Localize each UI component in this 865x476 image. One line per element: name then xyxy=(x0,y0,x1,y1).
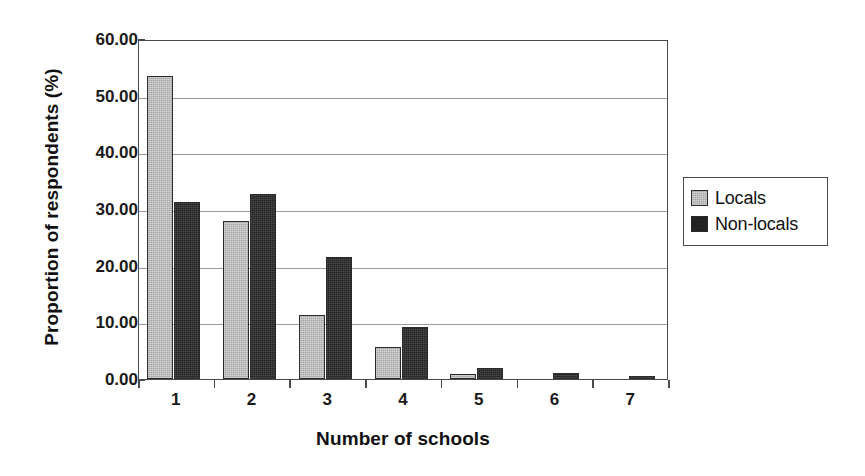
legend-label: Locals xyxy=(715,188,766,209)
legend-entry-locals[interactable]: Locals xyxy=(691,185,819,211)
x-tick-mark xyxy=(365,380,367,388)
plot-area xyxy=(138,40,668,380)
x-tick-mark xyxy=(289,380,291,388)
y-tick-label: 60.00 xyxy=(54,30,138,50)
bar-group xyxy=(147,41,200,379)
bar-non-locals-2 xyxy=(250,194,276,379)
bar-group xyxy=(526,41,579,379)
x-tick-mark xyxy=(592,380,594,388)
x-tick-label: 3 xyxy=(307,390,347,410)
y-axis-tick-group: 0.0010.0020.0030.0040.0050.0060.00 xyxy=(40,40,138,380)
bar-non-locals-5 xyxy=(477,368,503,379)
x-tick-mark xyxy=(214,380,216,388)
y-tick-label: 10.00 xyxy=(54,313,138,333)
x-tick-label: 6 xyxy=(534,390,574,410)
x-tick-label: 7 xyxy=(610,390,650,410)
x-tick-mark xyxy=(668,380,670,388)
bar-non-locals-4 xyxy=(402,327,428,379)
bar-group xyxy=(450,41,503,379)
bar-locals-3 xyxy=(299,315,325,379)
y-tick-label: 0.00 xyxy=(54,370,138,390)
x-tick-label: 4 xyxy=(383,390,423,410)
x-axis-title: Number of schools xyxy=(138,428,668,450)
x-tick-label: 1 xyxy=(156,390,196,410)
y-tick-label: 20.00 xyxy=(54,257,138,277)
bar-non-locals-7 xyxy=(629,376,655,379)
bar-locals-1 xyxy=(147,76,173,379)
y-tick-label: 30.00 xyxy=(54,200,138,220)
bar-group xyxy=(375,41,428,379)
x-tick-label: 2 xyxy=(232,390,272,410)
bar-group xyxy=(223,41,276,379)
y-tick-label: 50.00 xyxy=(54,87,138,107)
bar-locals-4 xyxy=(375,347,401,379)
bar-group xyxy=(602,41,655,379)
x-axis-tick-group xyxy=(138,380,668,388)
x-tick-mark xyxy=(517,380,519,388)
bar-chart-figure: Proportion of respondents (%) 0.0010.002… xyxy=(0,0,865,476)
bar-non-locals-3 xyxy=(326,257,352,379)
bar-non-locals-1 xyxy=(174,202,200,379)
legend-swatch-icon xyxy=(691,190,708,206)
bar-non-locals-6 xyxy=(553,373,579,379)
x-tick-mark xyxy=(441,380,443,388)
legend-swatch-icon xyxy=(691,216,708,232)
legend-entry-non-locals[interactable]: Non-locals xyxy=(691,211,819,237)
bar-locals-5 xyxy=(450,374,476,379)
x-tick-label: 5 xyxy=(459,390,499,410)
y-tick-label: 40.00 xyxy=(54,143,138,163)
chart-legend: LocalsNon-locals xyxy=(683,177,828,246)
legend-label: Non-locals xyxy=(715,214,798,235)
x-tick-mark xyxy=(138,380,140,388)
bar-group xyxy=(299,41,352,379)
x-axis-tick-labels: 1234567 xyxy=(138,390,668,416)
bar-locals-2 xyxy=(223,221,249,379)
